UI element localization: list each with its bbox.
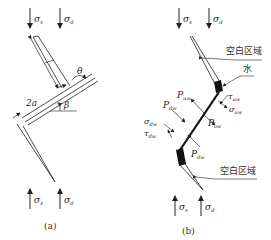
svg-text:σs: σs [34,14,43,25]
stress-arrow-sigma-uw [218,101,227,108]
label-sigma-uw: σuw [229,105,243,115]
angle-beta: β [63,100,69,110]
label-p-ow: Pow [207,118,222,129]
lower-wing-crack [17,124,55,182]
panel-b: σs σd 空白区域 水 空白区域 [144,8,262,236]
stress-arrow-bottom-s: σs [30,189,43,209]
svg-text:σs: σs [179,202,188,213]
beta-arc-icon [58,103,60,111]
force-arrow-p-dw-left [172,110,185,122]
dim-label-2a: 2a [25,98,37,108]
stress-arrow-tau-dw [168,130,172,138]
stress-arrow-tau-uw [220,95,228,104]
upper-wing-crack [190,36,220,84]
callout-line-empty-top [202,58,236,60]
water-fill-bottom [176,148,186,166]
upper-wing-crack [33,36,70,88]
label-empty-area-bottom: 空白区域 [220,165,256,176]
svg-text:σd: σd [64,14,73,25]
svg-text:σs: σs [183,14,192,25]
stress-arrow-top-d: σd [60,8,73,28]
water-fill-top [214,80,223,93]
force-arrow-p-dw-bottom [188,135,200,147]
stress-arrow-bottom-d: σd [60,189,73,209]
label-p-dw-bottom: Pdw [190,149,205,160]
lower-wing-crack [180,164,203,190]
svg-text:σd: σd [213,14,222,25]
label-tau-uw: τuw [228,92,241,102]
caption-a: (a) [44,221,56,231]
stress-arrow-sigma-dw [164,124,174,132]
stress-arrow-bottom-d: σd [201,196,214,216]
stress-arrow-bottom-s: σs [175,196,188,216]
angle-theta: θ [77,66,83,76]
label-water: 水 [243,63,252,74]
svg-text:σd: σd [64,195,73,206]
label-p-uw: Puw [176,90,191,101]
stress-arrow-top-d: σd [209,8,222,28]
callout-line-empty-bottom [196,177,215,179]
svg-text:σs: σs [34,195,43,206]
stress-arrow-top-s: σs [30,8,43,28]
svg-text:σd: σd [205,202,214,213]
dimension-tick-icon [13,113,20,118]
caption-b: (b) [182,226,195,236]
callout-line-water [223,76,240,86]
panel-a: σs σd 2a θ β [13,8,98,231]
label-p-dw-left: Pdw [162,100,177,111]
stress-arrow-top-s: σs [179,8,192,28]
label-sigma-dw: σdw [144,117,158,127]
diagram-canvas: σs σd 2a θ β [0,0,271,240]
force-arrow-p-uw [191,99,204,113]
label-tau-dw: τdw [144,129,157,139]
label-empty-area-top: 空白区域 [226,45,262,56]
